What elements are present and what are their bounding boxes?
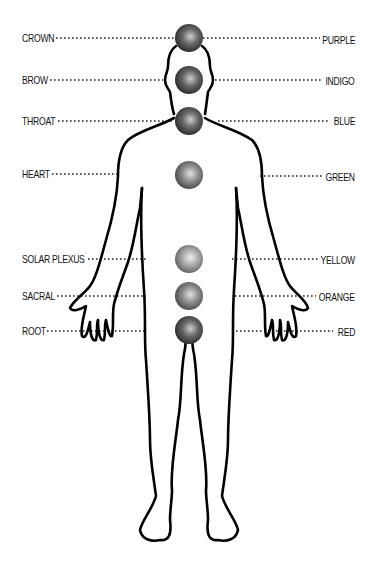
label-orange: ORANGE: [319, 291, 355, 303]
crown-chakra-sphere: [175, 24, 203, 52]
label-sacral: SACRAL: [22, 290, 55, 302]
throat-chakra-sphere: [175, 107, 203, 135]
label-green: GREEN: [326, 171, 355, 183]
heart-chakra-sphere: [175, 161, 203, 189]
root-chakra-sphere: [175, 316, 203, 344]
label-heart: HEART: [22, 168, 50, 180]
sacral-chakra-sphere: [175, 282, 203, 310]
chakra-body-diagram: [0, 0, 373, 577]
brow-chakra-sphere: [175, 66, 203, 94]
label-solar-plexus: SOLAR PLEXUS: [22, 253, 85, 265]
label-yellow: YELLOW: [321, 254, 355, 266]
label-blue: BLUE: [333, 115, 355, 127]
chakra-spheres: [175, 24, 203, 344]
label-throat: THROAT: [22, 115, 55, 127]
label-root: ROOT: [22, 325, 46, 337]
label-brow: BROW: [22, 74, 48, 86]
label-crown: CROWN: [22, 32, 54, 44]
label-red: RED: [338, 326, 355, 338]
label-indigo: INDIGO: [326, 75, 355, 87]
label-purple: PURPLE: [322, 34, 355, 46]
solar-plexus-chakra-sphere: [175, 245, 203, 273]
